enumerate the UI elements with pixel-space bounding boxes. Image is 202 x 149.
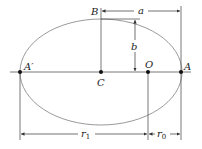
point-a-prime bbox=[18, 70, 22, 74]
label-b: b bbox=[131, 41, 137, 52]
label-a-prime: A′ bbox=[23, 61, 34, 72]
point-o bbox=[146, 70, 150, 74]
label-o: O bbox=[145, 59, 153, 70]
label-r1: r1 bbox=[81, 128, 90, 141]
label-c: C bbox=[97, 77, 105, 88]
label-a: a bbox=[138, 5, 144, 16]
label-a-point: A bbox=[183, 61, 191, 72]
label-r0: r0 bbox=[157, 128, 166, 141]
label-b-point: B bbox=[90, 6, 98, 17]
point-c bbox=[99, 70, 103, 74]
point-a bbox=[179, 70, 183, 74]
ellipse-diagram: a b r1 r0 A′ C O A B bbox=[0, 0, 202, 149]
